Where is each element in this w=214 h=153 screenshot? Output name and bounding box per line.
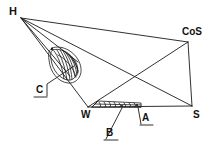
diagonal-cos-w <box>88 42 188 107</box>
edge-h-cos <box>21 18 188 42</box>
vertex-label-s: S <box>193 110 200 120</box>
callout-label-b: B <box>106 128 113 138</box>
edge-w-h <box>21 18 88 107</box>
vertex-label-w: W <box>81 110 90 120</box>
callout-label-c: C <box>36 85 43 95</box>
vertex-label-cos: CoS <box>182 27 202 37</box>
callout-a-leader <box>138 107 141 124</box>
edge-cos-s <box>188 42 192 106</box>
ray-h-shell-lower <box>21 18 70 76</box>
diagram-canvas: H CoS S W A B C <box>0 0 214 153</box>
vertex-label-h: H <box>9 6 17 17</box>
callout-label-a: A <box>142 113 149 123</box>
